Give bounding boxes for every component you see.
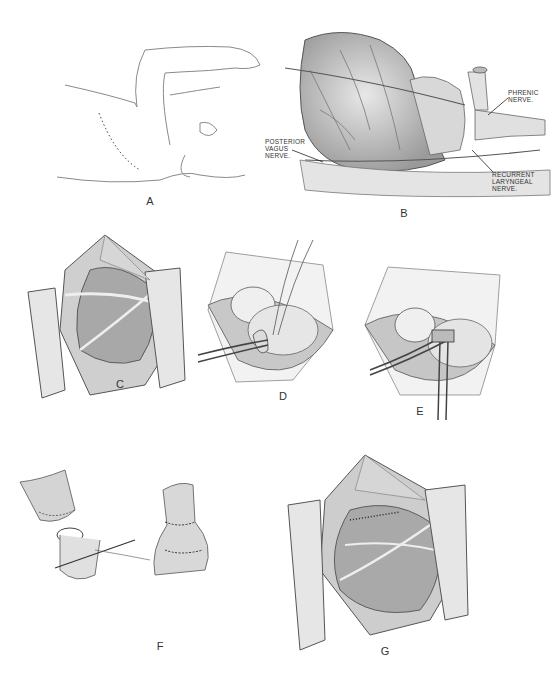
anastomosis-steps-illustration [15,470,255,660]
panel-label-g: G [375,645,395,657]
phrenic-nerve-label: PHRENIC NERVE. [508,89,539,103]
panel-d: D [198,240,338,410]
heart-illustration [250,0,557,230]
panel-label-e: E [410,405,430,417]
panel-label-b: B [394,207,414,219]
panel-g: G [270,450,470,665]
panel-b: PHRENIC NERVE. POSTERIOR VAGUS NERVE. RE… [250,0,557,230]
panel-a: A [40,35,270,205]
panel-label-d: D [273,390,293,402]
recurrent-laryngeal-nerve-label: RECURRENT LARYNGEAL NERVE. [492,171,535,192]
panel-e: E [360,255,540,425]
panel-label-f: F [150,640,170,652]
incision-line [99,113,140,170]
panel-c: C [20,230,200,420]
vessel-ligature-illustration [198,240,338,410]
patient-position-illustration [40,35,270,205]
incision-exposure-illustration [20,230,200,420]
panel-label-a: A [140,195,160,207]
panel-f: F [15,470,255,660]
vessel-clamp-illustration [360,255,540,425]
panel-label-c: C [110,378,130,390]
completed-repair-illustration [270,450,470,665]
posterior-vagus-nerve-label: POSTERIOR VAGUS NERVE. [265,138,305,159]
